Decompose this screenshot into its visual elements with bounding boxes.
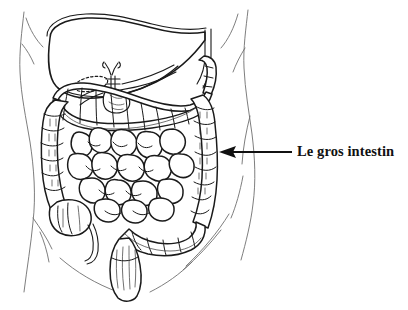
callout-arrow bbox=[219, 146, 292, 158]
cecum bbox=[49, 200, 98, 264]
anatomy-figure: Le gros intestin bbox=[0, 0, 408, 310]
callout-label-large-intestine: Le gros intestin bbox=[297, 143, 394, 159]
